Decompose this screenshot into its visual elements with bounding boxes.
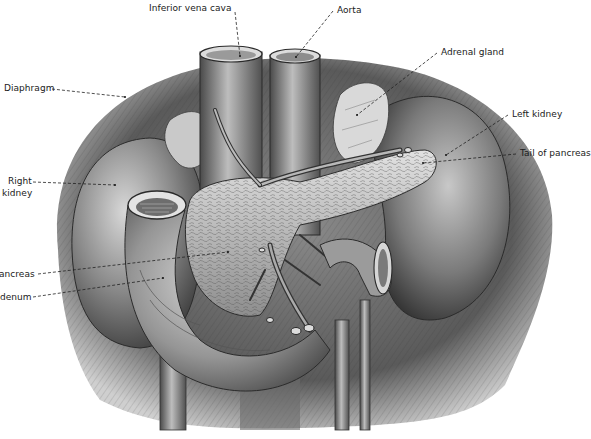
label-duodenum-clipped: denum <box>0 292 32 303</box>
label-right-kidney-line2: kidney <box>2 188 32 199</box>
label-aorta: Aorta <box>337 5 362 16</box>
label-inferior-vena-cava: Inferior vena cava <box>149 3 231 14</box>
label-left-kidney: Left kidney <box>512 109 562 120</box>
label-tail-of-pancreas: Tail of pancreas <box>520 148 591 159</box>
label-head-of-pancreas-clipped: ancreas <box>0 269 35 280</box>
label-adrenal-gland: Adrenal gland <box>441 47 504 58</box>
label-right-kidney-line1: Right <box>8 176 32 187</box>
label-diaphragm: Diaphragm <box>4 83 55 94</box>
leader-diaphragm <box>52 89 125 97</box>
leader-aorta <box>296 11 333 57</box>
